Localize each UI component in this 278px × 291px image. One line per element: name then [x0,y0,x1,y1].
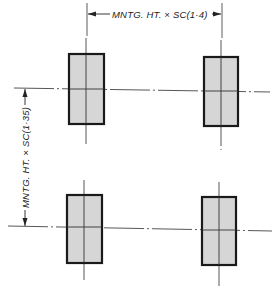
arrowhead-right-icon [213,12,221,17]
vertical-dimension-label: MNTG. HT. × SC(1·35) [20,107,31,208]
vertical-dimension: MNTG. HT. × SC(1·35) [20,89,31,226]
arrowhead-left-icon [88,12,96,17]
horizontal-dimension-label: MNTG. HT. × SC(1·4) [112,9,208,20]
horizontal-dimension: MNTG. HT. × SC(1·4) [88,9,221,20]
columns [67,54,238,265]
arrowhead-bottom-icon [23,218,28,226]
arrowhead-top-icon [23,89,28,97]
technical-drawing: MNTG. HT. × SC(1·4) MNTG. HT. × SC(1·35) [0,0,278,291]
column-bottom-left [67,195,102,263]
